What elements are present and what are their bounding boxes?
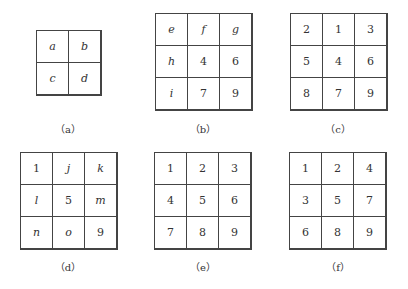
grid-cell: 2	[290, 13, 323, 46]
grid-cell: 8	[321, 216, 354, 249]
panel-caption-f: （f）	[326, 259, 350, 274]
grid-cell: f	[187, 13, 220, 46]
grid-cell: 6	[218, 184, 251, 217]
grid-cell: 1	[20, 152, 53, 185]
grid-cell: 6	[289, 216, 322, 249]
grid-cell: 8	[186, 216, 219, 249]
grid-panel-a: abcd	[36, 30, 102, 96]
grid-cell: 9	[354, 77, 387, 110]
grid-cell: 5	[290, 45, 323, 78]
grid-cell: h	[155, 45, 188, 78]
grid-cell: 5	[186, 184, 219, 217]
grid-cell: 4	[322, 45, 355, 78]
grid-cell: 2	[321, 152, 354, 185]
panel-caption-b: （b）	[190, 121, 216, 136]
grid-cell: 9	[353, 216, 386, 249]
grid-cell: 4	[353, 152, 386, 185]
grid-cell: 1	[154, 152, 187, 185]
grid-cell: 7	[154, 216, 187, 249]
grid-cell: o	[52, 216, 85, 249]
grid-cell: 3	[289, 184, 322, 217]
grid-panel-e: 123456789	[154, 152, 252, 250]
grid-cell: a	[36, 30, 69, 63]
panel-caption-e: （e）	[190, 259, 216, 274]
grid-cell: k	[84, 152, 117, 185]
grid-cell: 6	[219, 45, 252, 78]
grid-cell: 1	[322, 13, 355, 46]
grid-cell: 5	[52, 184, 85, 217]
grid-cell: c	[36, 62, 69, 95]
grid-cell: n	[20, 216, 53, 249]
grid-cell: 7	[353, 184, 386, 217]
panel-caption-a: （a）	[55, 121, 81, 136]
grid-cell: 6	[354, 45, 387, 78]
grid-panel-f: 124357689	[289, 152, 387, 250]
grid-cell: 5	[321, 184, 354, 217]
grid-cell: b	[68, 30, 101, 63]
grid-cell: m	[84, 184, 117, 217]
grid-cell: 7	[187, 77, 220, 110]
grid-cell: 3	[354, 13, 387, 46]
grid-cell: 2	[186, 152, 219, 185]
grid-panel-c: 213546879	[290, 13, 388, 111]
grid-cell: 7	[322, 77, 355, 110]
grid-cell: 4	[187, 45, 220, 78]
grid-cell: i	[155, 77, 188, 110]
grid-cell: l	[20, 184, 53, 217]
panel-caption-c: （c）	[325, 121, 351, 136]
grid-cell: d	[68, 62, 101, 95]
grid-cell: 9	[218, 216, 251, 249]
grid-cell: 1	[289, 152, 322, 185]
grid-cell: 4	[154, 184, 187, 217]
grid-cell: 9	[219, 77, 252, 110]
panel-caption-d: （d）	[55, 259, 81, 274]
grid-panel-b: efgh46i79	[155, 13, 253, 111]
grid-panel-d: 1jkl5mno9	[20, 152, 118, 250]
grid-cell: 9	[84, 216, 117, 249]
grid-cell: 8	[290, 77, 323, 110]
grid-cell: g	[219, 13, 252, 46]
grid-cell: e	[155, 13, 188, 46]
grid-cell: j	[52, 152, 85, 185]
grid-cell: 3	[218, 152, 251, 185]
